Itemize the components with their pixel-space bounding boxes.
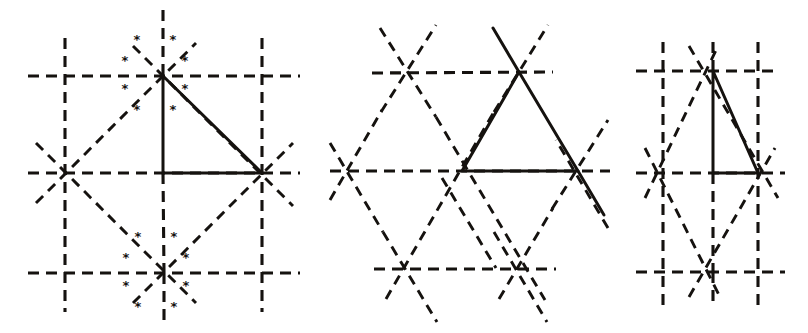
solid-base-right-extension [578,171,604,215]
star-marker: * [123,278,130,293]
solid-apex-extension-left [493,28,519,72]
figure-root: ******** ******** [0,0,808,333]
panel-left-solid-triangle [163,76,262,173]
star-marker: * [183,250,190,265]
star-marker: * [135,229,142,244]
diag-up-left [645,46,718,198]
solid-right-triangle [163,76,262,173]
panel-right-rectangular-lattice [636,42,785,305]
gridline-horizontal-top [372,72,553,73]
star-marker: * [122,53,129,68]
star-marker: * [170,102,177,117]
star-marker: * [134,102,141,117]
diag-down-f [556,140,608,228]
panel-middle-diagonal-gridlines-up [330,25,608,299]
star-marker: * [134,32,141,47]
panel-left-square-lattice: ******** ******** [28,10,300,325]
diagonal-up-right-upper [133,143,293,303]
diagonal-down-right-lower [36,143,196,303]
star-marker: * [183,278,190,293]
star-marker: * [170,32,177,47]
star-marker: * [123,250,130,265]
star-marker: * [182,81,189,96]
diag-down-left [645,148,720,297]
panel-middle-solid-triangle [462,28,604,215]
star-marker: * [171,229,178,244]
diag-down-g [442,178,496,268]
diag-down-right [689,46,778,198]
star-cluster-top-vertex: ******** [122,32,189,117]
diag-up-f [552,120,608,209]
diag-up-b [381,25,436,112]
star-marker: * [171,299,178,314]
solid-tall-triangle [713,71,758,173]
diag-down-e [494,232,547,322]
panel-right-solid-triangle [713,71,758,173]
star-marker: * [135,299,142,314]
solid-equilateral-triangle [462,72,578,171]
diag-up-c [386,110,495,299]
gridline-vertical-center-lower [163,173,164,273]
diag-up-a [330,110,382,200]
diag-down-d [383,232,437,322]
diagonal-up-right-lower [36,43,196,203]
star-marker: * [122,81,129,96]
lattice-figure-canvas: ******** ******** [0,0,808,333]
diag-down-b [436,117,545,300]
star-marker: * [182,53,189,68]
panel-middle-triangular-lattice [330,25,610,322]
